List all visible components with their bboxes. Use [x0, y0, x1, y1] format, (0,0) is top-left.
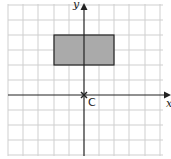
- y-axis-label: y: [73, 0, 79, 11]
- center-label: C: [88, 96, 96, 109]
- y-axis-arrow-icon: [81, 3, 88, 10]
- grid-lines: [8, 4, 163, 156]
- axes: [8, 9, 165, 156]
- x-axis-label: x: [166, 97, 171, 110]
- coordinate-grid: [0, 0, 171, 159]
